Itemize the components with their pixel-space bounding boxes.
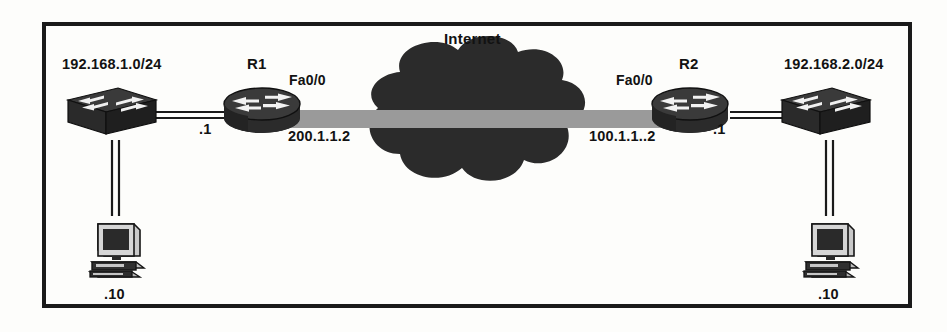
ip-label-r2-lan: .1 [713,121,726,137]
cloud-label-internet: Internet [444,30,501,47]
interface-label-r1-fa00: Fa0/0 [289,72,326,88]
ip-label-r2-wan: 100.1.1..2 [589,128,656,144]
subnet-label-right: 192.168.2.0/24 [784,56,884,72]
wan-link-bar-overlay [276,110,676,128]
router-r1-icon [224,88,300,133]
internet-cloud [369,36,585,181]
host-label-right: .10 [818,286,839,302]
ip-label-r1-wan: 200.1.1.2 [288,128,350,144]
pc-right-icon [804,224,858,277]
ip-label-r1-lan: .1 [199,121,212,137]
topology-svg [0,0,947,332]
router-label-r2: R2 [679,55,699,72]
interface-label-r2-fa00: Fa0/0 [616,72,653,88]
network-diagram-canvas: 192.168.1.0/24 R1 Fa0/0 .1 200.1.1.2 Int… [0,0,947,332]
host-label-left: .10 [104,286,125,302]
subnet-label-left: 192.168.1.0/24 [62,56,162,72]
pc-left-icon [90,224,144,277]
router-label-r1: R1 [247,55,267,72]
